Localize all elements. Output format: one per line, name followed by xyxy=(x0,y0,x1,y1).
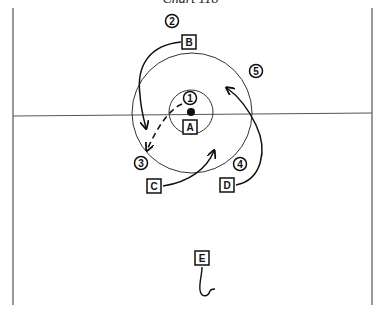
svg-text:1: 1 xyxy=(187,93,193,104)
path-pass-dashed-arrow xyxy=(147,104,182,150)
svg-text:C: C xyxy=(150,181,157,192)
player-box-c: C xyxy=(147,179,161,193)
path-d-arrow xyxy=(227,88,262,185)
svg-text:B: B xyxy=(185,37,192,48)
ball-icon xyxy=(187,108,195,116)
player-box-b: B xyxy=(182,35,196,49)
position-marker-2: 2 xyxy=(166,15,179,28)
svg-text:D: D xyxy=(223,180,230,191)
position-marker-4: 4 xyxy=(234,158,247,171)
svg-text:2: 2 xyxy=(169,16,175,27)
play-diagram: 1 2 3 4 5 A B C D E xyxy=(0,0,381,312)
player-box-d: D xyxy=(220,178,234,192)
svg-text:A: A xyxy=(186,122,193,133)
svg-text:E: E xyxy=(199,253,206,264)
player-box-a: A xyxy=(183,120,197,134)
svg-text:4: 4 xyxy=(237,159,243,170)
position-marker-3: 3 xyxy=(135,157,148,170)
position-marker-5: 5 xyxy=(250,65,263,78)
path-c-arrow xyxy=(163,151,214,186)
path-e-hook xyxy=(200,267,215,296)
position-marker-1: 1 xyxy=(184,92,197,105)
svg-text:3: 3 xyxy=(138,158,144,169)
svg-text:5: 5 xyxy=(253,66,259,77)
player-box-e: E xyxy=(195,251,209,265)
